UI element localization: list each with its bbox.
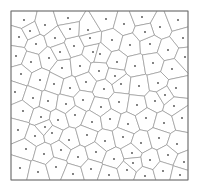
seed-point <box>25 148 27 150</box>
seed-point <box>184 56 186 58</box>
seed-point <box>29 30 31 32</box>
seed-point <box>149 43 151 45</box>
seed-point <box>109 118 111 120</box>
seed-point <box>69 87 71 89</box>
seed-point <box>136 104 138 106</box>
seed-point <box>74 114 76 116</box>
seed-point <box>18 36 20 38</box>
seed-point <box>30 61 32 63</box>
seed-point <box>55 166 57 168</box>
seed-point <box>34 135 36 137</box>
seed-point <box>77 156 79 158</box>
seed-point <box>104 140 106 142</box>
seed-point <box>60 149 62 151</box>
seed-point <box>144 175 146 177</box>
seed-point <box>57 119 59 121</box>
seed-point <box>37 171 39 173</box>
seed-point <box>177 19 179 21</box>
seed-point <box>171 68 173 70</box>
voronoi-diagram <box>0 0 200 192</box>
seed-point <box>73 45 75 47</box>
seed-point <box>79 65 81 67</box>
seed-point <box>120 83 122 85</box>
seed-point <box>129 44 131 46</box>
seed-point <box>44 126 46 128</box>
seed-point <box>116 61 118 63</box>
seed-point <box>19 167 21 169</box>
seed-point <box>22 110 24 112</box>
seed-point <box>32 97 34 99</box>
seed-point <box>152 62 154 64</box>
seed-point <box>175 87 177 89</box>
seed-point <box>131 152 133 154</box>
seed-point <box>144 31 146 33</box>
seed-point <box>140 142 142 144</box>
seed-point <box>67 17 69 19</box>
seed-point <box>43 153 45 155</box>
seed-point <box>163 122 165 124</box>
seed-point <box>105 18 107 20</box>
seed-point <box>103 88 105 90</box>
seed-point <box>141 16 143 18</box>
seed-point <box>87 29 89 31</box>
seed-point <box>68 139 70 141</box>
seed-point <box>123 23 125 25</box>
seed-point <box>91 121 93 123</box>
seed-point <box>82 99 84 101</box>
seed-point <box>159 26 161 28</box>
seed-point <box>44 24 46 26</box>
seed-point <box>90 168 92 170</box>
seed-point <box>99 53 101 55</box>
voronoi-figure <box>0 0 200 192</box>
seed-point <box>20 73 22 75</box>
seed-point <box>15 55 17 57</box>
seed-point <box>113 158 115 160</box>
voronoi-cells <box>11 11 188 180</box>
seed-point <box>122 136 124 138</box>
seed-point <box>17 129 19 131</box>
seed-point <box>47 100 49 102</box>
seed-point <box>167 49 169 51</box>
seed-point <box>145 117 147 119</box>
seed-point <box>126 169 128 171</box>
seed-point <box>85 81 87 83</box>
seed-point <box>69 28 71 30</box>
seed-point <box>157 82 159 84</box>
seed-point <box>181 117 183 119</box>
seed-point <box>98 70 100 72</box>
seed-point <box>100 106 102 108</box>
seed-point <box>95 151 97 153</box>
seed-point <box>158 137 160 139</box>
seed-point <box>39 79 41 81</box>
seed-point <box>167 154 169 156</box>
seed-point <box>114 75 116 77</box>
seed-point <box>176 143 178 145</box>
seed-point <box>35 43 37 45</box>
seed-point <box>108 174 110 176</box>
seed-point <box>134 65 136 67</box>
seed-point <box>182 37 184 39</box>
seed-point <box>127 123 129 125</box>
seed-point <box>111 39 113 41</box>
seed-point <box>138 85 140 87</box>
seed-point <box>179 174 181 176</box>
seed-point <box>86 134 88 136</box>
seed-point <box>154 100 156 102</box>
seed-point <box>53 83 55 85</box>
seed-point <box>118 101 120 103</box>
seed-point <box>48 57 50 59</box>
seed-point <box>40 116 42 118</box>
seed-point <box>132 162 134 164</box>
seed-point <box>14 91 16 93</box>
seed-point <box>51 132 53 134</box>
seed-point <box>162 170 164 172</box>
seed-point <box>92 51 94 53</box>
seed-point <box>164 94 166 96</box>
seed-point <box>89 37 91 39</box>
seed-point <box>173 105 175 107</box>
seed-point <box>149 159 151 161</box>
seed-point <box>183 161 185 163</box>
seed-point <box>65 103 67 105</box>
seed-point <box>72 173 74 175</box>
seed-point <box>54 37 56 39</box>
